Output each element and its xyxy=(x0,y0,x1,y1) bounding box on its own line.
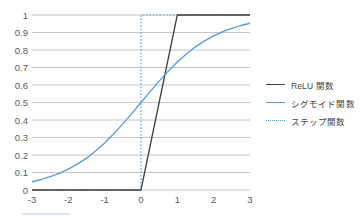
legend-line-solid-icon xyxy=(266,102,285,103)
legend-label: ReLU 関数 xyxy=(291,79,334,91)
caption-accent-bar xyxy=(22,213,70,215)
x-tick-label: -2 xyxy=(64,194,72,205)
activation-functions-chart: 1 0.9 0.8 0.7 0.6 0.5 0.4 0.3 0.2 0.1 0 … xyxy=(0,0,364,218)
y-tick-label: 0.6 xyxy=(15,80,28,91)
y-tick-label: 0.5 xyxy=(15,97,28,108)
legend-item-relu[interactable]: ReLU 関数 xyxy=(266,76,364,93)
x-tick-label: 1 xyxy=(175,194,180,205)
y-tick-label: 0.9 xyxy=(15,27,28,38)
legend-line-solid-icon xyxy=(266,84,285,85)
chart-legend: ReLU 関数 シグモイド関数 ステップ関数 xyxy=(266,76,364,130)
x-tick-label: 2 xyxy=(211,194,216,205)
y-tick-label: 0.1 xyxy=(15,167,28,178)
y-axis-tick-labels: 1 0.9 0.8 0.7 0.6 0.5 0.4 0.3 0.2 0.1 0 xyxy=(15,10,28,196)
x-tick-label: -1 xyxy=(100,194,108,205)
y-tick-label: 0.3 xyxy=(15,132,28,143)
legend-line-dotted-icon xyxy=(266,120,285,121)
y-tick-label: 0.8 xyxy=(15,45,28,56)
cropped-caption-strip xyxy=(0,211,364,218)
legend-item-sigmoid[interactable]: シグモイド関数 xyxy=(266,94,364,111)
legend-label: ステップ関数 xyxy=(291,115,346,127)
legend-item-step[interactable]: ステップ関数 xyxy=(266,112,364,129)
x-tick-label: 3 xyxy=(247,194,252,205)
x-tick-label: -3 xyxy=(28,194,36,205)
y-tick-label: 0.7 xyxy=(15,62,28,73)
legend-label: シグモイド関数 xyxy=(291,97,355,109)
y-tick-label: 0.2 xyxy=(15,150,28,161)
x-tick-label: 0 xyxy=(138,194,143,205)
y-tick-label: 0.4 xyxy=(15,115,28,126)
y-tick-label: 1 xyxy=(23,10,28,21)
x-axis-tick-labels: -3 -2 -1 0 1 2 3 xyxy=(28,194,253,205)
